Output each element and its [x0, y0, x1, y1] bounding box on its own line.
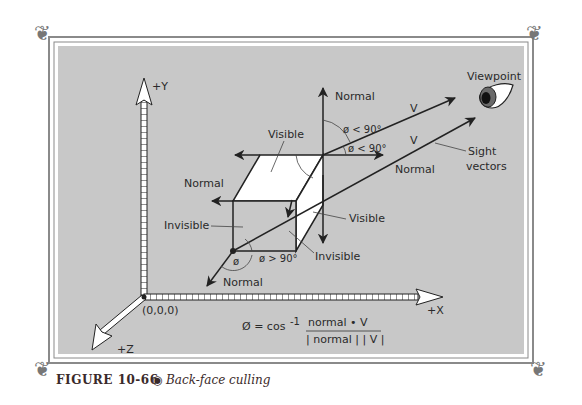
formula-numerator: normal • V [308, 316, 368, 329]
angle-upper-label: ø < 90° [343, 124, 382, 135]
normal-top-label: Normal [335, 90, 375, 103]
phi-label: ø [233, 256, 239, 267]
normal-left-label: Normal [184, 177, 224, 190]
caption-bullet-icon: ◉ [152, 373, 163, 387]
visible-side-label: Visible [349, 212, 385, 225]
corner-ornament-icon: ❦ [526, 21, 543, 45]
corner-ornament-icon: ❦ [530, 357, 547, 381]
v-upper-label: V [410, 102, 418, 115]
invisible-left-label: Invisible [164, 219, 210, 232]
corner-ornament-icon: ❦ [34, 21, 51, 45]
sight-vectors-label-2: vectors [466, 160, 507, 173]
normal-bottom-label: Normal [223, 276, 263, 289]
formula-lhs: Ø = cos [242, 320, 286, 333]
angle-bottom-label: ø > 90° [259, 253, 298, 264]
z-axis-label: +Z [117, 343, 134, 356]
formula-denominator: | normal | | V | [306, 333, 384, 346]
corner-ornament-icon: ❦ [34, 357, 51, 381]
viewpoint-label: Viewpoint [467, 70, 522, 83]
visible-top-label: Visible [268, 128, 304, 141]
figure-title: Back-face culling [165, 373, 271, 387]
normal-right-label: Normal [395, 163, 435, 176]
figure-number: FIGURE 10-66 [56, 373, 159, 387]
cube-front-face [233, 201, 296, 251]
origin-label: (0,0,0) [142, 304, 179, 317]
formula-superscript: -1 [290, 316, 300, 327]
figure-caption: FIGURE 10-66 ◉ Back-face culling [56, 373, 271, 387]
sight-vectors-label-1: Sight [468, 145, 497, 158]
back-face-culling-diagram: ❦ ❦ ❦ ❦ +Y +X +Z (0,0,0) [0, 0, 582, 405]
v-lower-label: V [410, 134, 418, 147]
angle-lower-label: ø < 90° [348, 143, 387, 154]
invisible-bottom-label: Invisible [315, 250, 361, 263]
x-axis-label: +X [427, 304, 444, 317]
y-axis-label: +Y [152, 80, 168, 93]
